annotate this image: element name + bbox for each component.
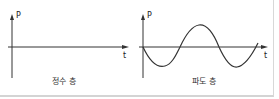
wave-x-label: t — [264, 51, 267, 60]
still-water-caption: 정수 층 — [52, 75, 76, 86]
diagram-canvas: P t 정수 층 P t 파도 층 — [0, 0, 279, 99]
wave-axes — [139, 14, 268, 78]
still-water-y-label: P — [16, 11, 21, 20]
still-water-x-label: t — [123, 51, 126, 60]
still-water-axes — [8, 14, 129, 78]
wave-y-label: P — [147, 11, 152, 20]
diagram-graphics — [0, 0, 279, 99]
wave-curve — [143, 25, 258, 67]
wave-caption: 파도 층 — [192, 75, 216, 86]
